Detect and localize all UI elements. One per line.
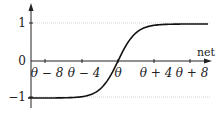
y-tick-label-0: 0 [2, 55, 26, 67]
y-tick-label-minus-1: −1 [2, 91, 26, 103]
y-axis-arrow-icon [29, 3, 34, 11]
y-tick-label-1: 1 [2, 17, 26, 29]
x-tick-label-theta-plus-8: θ + 8 [176, 67, 209, 79]
x-axis-arrow-icon [204, 59, 212, 64]
x-axis-label: net [197, 47, 215, 58]
chart-canvas [0, 0, 221, 116]
x-tick-label-theta-minus-8: θ − 8 [31, 67, 64, 79]
x-tick-label-theta: θ [114, 67, 121, 79]
x-tick-label-theta-minus-4: θ − 4 [68, 67, 101, 79]
x-tick-label-theta-plus-4: θ + 4 [140, 67, 173, 79]
